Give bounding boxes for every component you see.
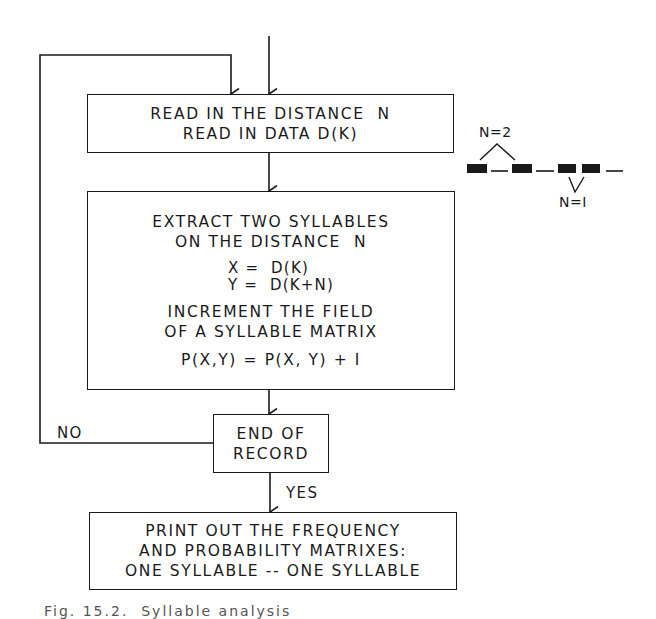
- extract-heading-line1: EXTRACT TWO SYLLABLES: [152, 212, 389, 232]
- print-line3: ONE SYLLABLE -- ONE SYLLABLE: [125, 561, 421, 581]
- end-of-record-decision: END OF RECORD: [213, 414, 329, 473]
- print-line2: AND PROBABILITY MATRIXES:: [139, 541, 407, 561]
- equation-y: Y = D(K+N): [228, 277, 334, 294]
- distance-2-bracket: [480, 144, 515, 160]
- syllable-distance-illustration: [467, 144, 623, 192]
- syllable-block: [558, 164, 576, 173]
- distance-1-label: N=I: [559, 194, 587, 210]
- syllable-block: [512, 164, 532, 173]
- extract-syllables-box: EXTRACT TWO SYLLABLES ON THE DISTANCE N …: [87, 191, 455, 390]
- read-input-box: READ IN THE DISTANCE N READ IN DATA D(K): [87, 94, 454, 153]
- yes-branch-label: YES: [286, 484, 318, 502]
- distance-2-label: N=2: [479, 124, 512, 140]
- increment-line1: INCREMENT THE FIELD: [168, 302, 375, 322]
- increment-formula: P(X,Y) = P(X, Y) + I: [181, 350, 361, 370]
- read-data-text: READ IN DATA D(K): [183, 124, 358, 144]
- syllable-block: [467, 164, 487, 173]
- equations-block: X = D(K) Y = D(K+N): [208, 260, 334, 294]
- distance-1-bracket: [569, 177, 584, 192]
- increment-line2: OF A SYLLABLE MATRIX: [164, 322, 377, 342]
- print-matrices-box: PRINT OUT THE FREQUENCY AND PROBABILITY …: [89, 512, 457, 590]
- equation-x: X = D(K): [228, 260, 334, 277]
- no-branch-label: NO: [57, 424, 83, 442]
- figure-caption: Fig. 15.2. Syllable analysis: [44, 603, 291, 619]
- decision-line1: END OF: [237, 424, 306, 444]
- decision-line2: RECORD: [233, 444, 309, 464]
- print-line1: PRINT OUT THE FREQUENCY: [145, 521, 401, 541]
- extract-heading-line2: ON THE DISTANCE N: [175, 232, 367, 252]
- read-distance-text: READ IN THE DISTANCE N: [150, 104, 391, 124]
- syllable-block: [582, 164, 600, 173]
